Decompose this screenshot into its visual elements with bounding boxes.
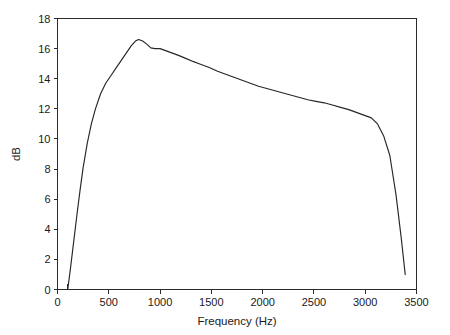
- x-tick-label: 2000: [250, 296, 274, 308]
- y-tick-label: 4: [44, 223, 50, 235]
- y-tick-label: 16: [38, 43, 50, 55]
- x-axis-title: Frequency (Hz): [197, 315, 276, 327]
- x-tick-label: 0: [54, 296, 60, 308]
- y-tick-label: 0: [44, 284, 50, 296]
- x-tick-label: 3500: [404, 296, 428, 308]
- x-axis-tick-labels: 0500100015002000250030003500: [54, 296, 428, 308]
- x-tick-label: 2500: [302, 296, 326, 308]
- line-chart-svg: 024681012141618 050010001500200025003000…: [0, 0, 450, 335]
- y-tick-label: 12: [38, 103, 50, 115]
- y-tick-label: 6: [44, 193, 50, 205]
- x-tick-label: 1000: [148, 296, 172, 308]
- x-tick-label: 3000: [353, 296, 377, 308]
- x-tick-label: 1500: [199, 296, 223, 308]
- x-tick-label: 500: [100, 296, 118, 308]
- x-axis-ticks: [58, 284, 417, 294]
- plot-frame: [58, 19, 417, 290]
- y-tick-label: 8: [44, 163, 50, 175]
- y-axis-ticks: [54, 19, 58, 290]
- y-tick-label: 10: [38, 133, 50, 145]
- chart-figure: 024681012141618 050010001500200025003000…: [0, 0, 450, 335]
- data-series-group: [68, 40, 405, 290]
- y-tick-label: 14: [38, 73, 50, 85]
- series-line-response: [68, 40, 405, 290]
- y-axis-title: dB: [10, 147, 22, 161]
- y-tick-label: 18: [38, 13, 50, 25]
- y-axis-tick-labels: 024681012141618: [38, 13, 50, 296]
- y-tick-label: 2: [44, 253, 50, 265]
